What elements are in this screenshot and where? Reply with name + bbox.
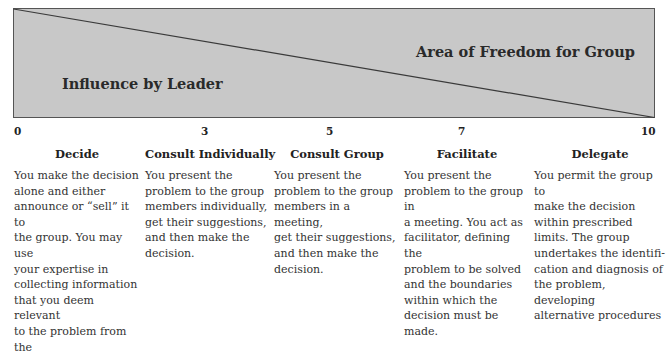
style-column-consult-group: Consult Group You present the problem to… — [274, 147, 400, 277]
style-column-facilitate: Facilitate You present the problem to th… — [404, 147, 530, 340]
style-title: Consult Group — [274, 147, 400, 161]
area-of-freedom-label: Area of Freedom for Group — [416, 43, 635, 60]
tick-label-5: 5 — [326, 125, 333, 137]
style-description: You present the problem to the group in … — [404, 168, 530, 340]
style-title: Facilitate — [404, 147, 530, 161]
tick-label-10: 10 — [641, 125, 656, 137]
tick-label-7: 7 — [458, 125, 465, 137]
style-description: You permit the group to make the decisio… — [534, 168, 666, 324]
leadership-continuum-diagram: Influence by Leader Area of Freedom for … — [13, 8, 655, 118]
style-title: Decide — [14, 147, 140, 161]
continuum-box — [13, 8, 655, 118]
style-description: You present the problem to the group mem… — [274, 168, 400, 277]
style-column-decide: Decide You make the decision alone and e… — [14, 147, 140, 355]
tick-label-3: 3 — [201, 125, 208, 137]
style-title: Consult Individually — [145, 147, 271, 161]
style-description: You present the problem to the group mem… — [145, 168, 271, 262]
style-description: You make the decision alone and either a… — [14, 168, 140, 355]
style-title: Delegate — [534, 147, 666, 161]
influence-by-leader-label: Influence by Leader — [62, 75, 223, 92]
style-column-consult-individually: Consult Individually You present the pro… — [145, 147, 271, 262]
style-column-delegate: Delegate You permit the group to make th… — [534, 147, 666, 324]
tick-label-0: 0 — [14, 125, 21, 137]
